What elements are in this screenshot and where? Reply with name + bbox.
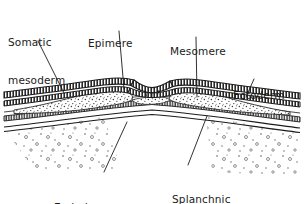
label-line: Splanchnic (172, 193, 231, 204)
label-line: Mesomere (170, 45, 226, 58)
label-mesomere: Mesomere (170, 20, 226, 83)
label-line: mesoderm (8, 74, 65, 87)
label-somatic-mesoderm: Somatic mesoderm (8, 11, 65, 111)
figure-canvas: Somatic mesoderm Epimere Mesomere Ectode… (0, 0, 304, 204)
lower-mesenchyme-left (0, 110, 130, 180)
label-line: Endoderm (54, 201, 109, 204)
label-line: Epimere (88, 37, 133, 50)
label-endoderm: Endoderm (54, 176, 109, 204)
label-ectoderm: Ectoderm (233, 64, 285, 127)
leader-splanchnic (188, 116, 207, 165)
label-line: Ectoderm (233, 89, 285, 102)
label-line: Somatic (8, 36, 65, 49)
label-splanchnic-mesoderm: Splanchnic mesoderm (172, 168, 231, 204)
label-epimere: Epimere (88, 12, 133, 75)
